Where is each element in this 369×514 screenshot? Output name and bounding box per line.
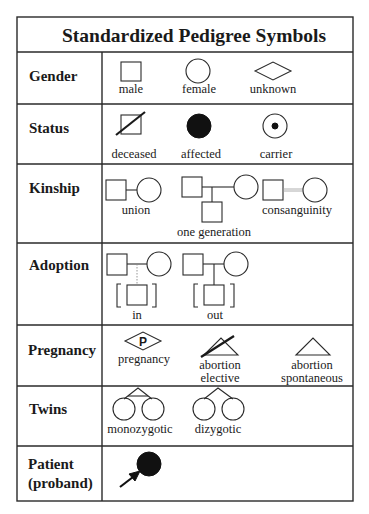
- carrier-dotted-circle-icon: [263, 114, 287, 138]
- adoption-in-icon: [107, 252, 171, 307]
- label-female: female: [182, 82, 216, 96]
- dizygotic-twins-icon: [193, 388, 244, 420]
- label-one-generation: one generation: [177, 225, 252, 239]
- row-label-twins: Twins: [29, 401, 67, 417]
- label-adoption-in: in: [132, 308, 142, 322]
- pregnancy-diamond-icon: P: [125, 332, 161, 350]
- pedigree-symbols-table: Standardized Pedigree Symbols Gender Sta…: [0, 0, 369, 514]
- row-label-proband: (proband): [28, 475, 93, 492]
- label-union: union: [122, 203, 151, 217]
- row-label-patient: Patient: [28, 456, 74, 472]
- abortion-spontaneous-triangle-icon: [296, 338, 330, 355]
- abortion-elective-icon: [201, 336, 238, 357]
- adoption-out-icon: [183, 252, 248, 307]
- label-deceased: deceased: [111, 147, 157, 161]
- proband-arrow-icon: [120, 471, 140, 487]
- label-male: male: [119, 82, 144, 96]
- label-abortion-spontaneous-2: spontaneous: [281, 371, 343, 385]
- label-dizygotic: dizygotic: [195, 422, 242, 436]
- row-label-kinship: Kinship: [29, 180, 80, 196]
- union-icon: [106, 178, 161, 202]
- label-pregnancy: pregnancy: [118, 352, 171, 366]
- label-monozygotic: monozygotic: [107, 422, 173, 436]
- label-affected: affected: [181, 147, 222, 161]
- label-abortion-elective-2: elective: [201, 371, 240, 385]
- male-square-icon: [121, 62, 141, 81]
- female-circle-icon: [186, 59, 210, 83]
- row-label-status: Status: [29, 120, 69, 136]
- label-adoption-out: out: [207, 308, 224, 322]
- label-abortion-spontaneous-1: abortion: [291, 358, 333, 372]
- label-carrier: carrier: [260, 147, 293, 161]
- label-unknown: unknown: [250, 82, 297, 96]
- row-label-adoption: Adoption: [29, 257, 90, 273]
- consanguinity-icon: [263, 178, 327, 202]
- unknown-diamond-icon: [255, 62, 291, 80]
- proband-filled-circle-icon: [137, 452, 161, 476]
- one-generation-icon: [182, 175, 258, 222]
- label-abortion-elective-1: abortion: [199, 358, 241, 372]
- deceased-icon: [116, 112, 145, 135]
- label-consanguinity: consanguinity: [262, 203, 333, 217]
- row-label-gender: Gender: [29, 68, 78, 84]
- affected-filled-circle-icon: [187, 114, 211, 138]
- page-title: Standardized Pedigree Symbols: [62, 25, 326, 46]
- monozygotic-twins-icon: [113, 388, 164, 420]
- svg-text:P: P: [139, 335, 147, 349]
- row-label-pregnancy: Pregnancy: [28, 342, 97, 358]
